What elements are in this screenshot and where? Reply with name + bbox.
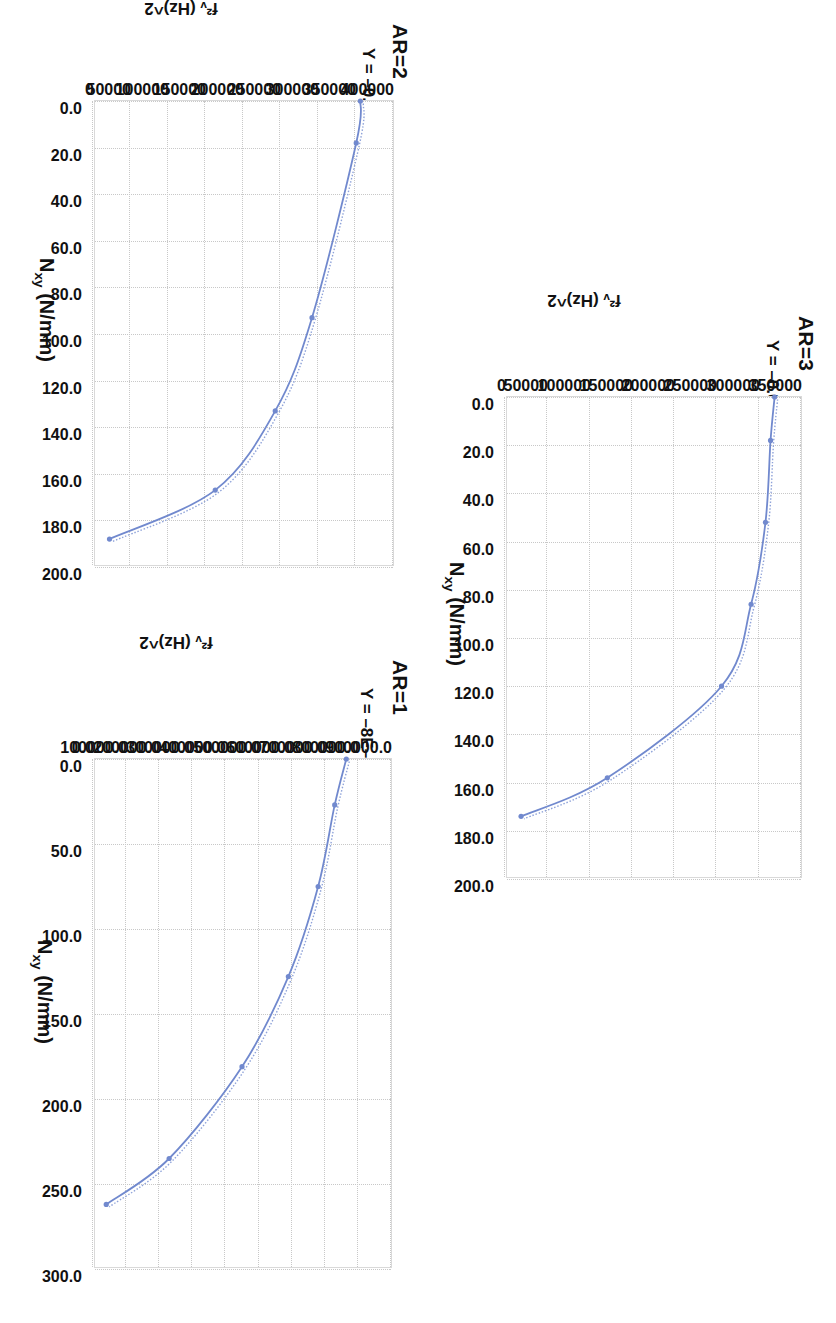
- y-title-text: f²ᵥ (Hz)^2: [139, 633, 213, 652]
- x-axis-tick-label: 120.0: [454, 685, 494, 703]
- x-axis-tick-label: 180.0: [42, 519, 82, 537]
- x-axis-tick-label: 150.0: [42, 1013, 82, 1031]
- data-point-marker: [605, 775, 610, 780]
- x-axis-tick-label: 200.0: [42, 1098, 82, 1116]
- y-axis-tick-label: 0: [497, 377, 506, 395]
- plot-area-ar1: [94, 758, 392, 1268]
- y-axis-title-ar2: f²ᵥ (Hz)^2: [144, 0, 218, 18]
- x-title-main: N: [36, 258, 58, 272]
- y-axis-tick-label: 50000: [504, 377, 549, 395]
- x-axis-tick-label: 200.0: [454, 878, 494, 896]
- data-point-marker: [719, 684, 724, 689]
- y-axis-title-ar1: f²ᵥ (Hz)^2: [139, 632, 213, 652]
- chart-panel-ar1: AR=1 Y = –8E–05x4 + 0.0147x3 – 9.5849x2 …: [18, 640, 418, 1300]
- x-axis-tick-label: 20.0: [51, 147, 82, 165]
- x-axis-tick-label: 250.0: [42, 1183, 82, 1201]
- data-point-marker: [763, 520, 768, 525]
- data-point-marker: [213, 488, 218, 493]
- data-point-marker: [344, 756, 349, 761]
- grid-line-vertical: [95, 567, 393, 569]
- data-point-marker: [104, 1202, 109, 1207]
- x-axis-tick-label: 80.0: [51, 286, 82, 304]
- data-point-marker: [309, 315, 314, 320]
- x-axis-tick-label: 100.0: [454, 637, 494, 655]
- x-axis-tick-label: 100.0: [42, 333, 82, 351]
- x-axis-tick-label: 160.0: [454, 782, 494, 800]
- grid-line-vertical: [507, 879, 801, 881]
- x-axis-tick-label: 140.0: [42, 426, 82, 444]
- data-point-marker: [316, 884, 321, 889]
- x-axis-tick-label: 20.0: [463, 444, 494, 462]
- data-point-marker: [768, 438, 773, 443]
- data-point-marker: [354, 140, 359, 145]
- x-axis-tick-label: 0.0: [60, 100, 82, 118]
- x-axis-tick-label: 40.0: [463, 492, 494, 510]
- data-series-curve: [93, 101, 393, 567]
- chart-title-ar1: AR=1: [388, 660, 412, 715]
- y-title-text: f²ᵥ (Hz)^2: [547, 291, 621, 310]
- x-axis-tick-label: 140.0: [454, 733, 494, 751]
- grid-line-vertical: [95, 1269, 391, 1271]
- plot-area-ar3: [506, 396, 802, 878]
- data-point-marker: [749, 602, 754, 607]
- chart-panel-ar3: AR=3 Y = –0.0006x4 + 0.0452x3 – 0.5769x2…: [431, 300, 826, 920]
- data-point-marker: [358, 98, 363, 103]
- chart-title-ar3: AR=3: [794, 316, 818, 371]
- data-series-curve: [505, 397, 801, 879]
- x-title-sub: xy: [442, 576, 457, 591]
- x-axis-tick-label: 200.0: [42, 566, 82, 584]
- x-title-main: N: [446, 562, 468, 576]
- data-point-marker: [286, 974, 291, 979]
- data-point-marker: [167, 1156, 172, 1161]
- data-point-marker: [273, 408, 278, 413]
- x-axis-tick-label: 0.0: [60, 758, 82, 776]
- x-axis-tick-label: 120.0: [42, 380, 82, 398]
- x-title-sub: xy: [30, 954, 45, 969]
- data-point-marker: [239, 1064, 244, 1069]
- chart-panel-ar2: AR=2 Y = –0.0008x4 + 0.1856x3 – 18.612x2…: [18, 8, 418, 608]
- x-axis-tick-label: 60.0: [463, 541, 494, 559]
- data-point-marker: [518, 814, 523, 819]
- x-axis-tick-label: 180.0: [454, 830, 494, 848]
- data-series-curve: [93, 759, 391, 1269]
- x-title-sub: xy: [32, 272, 47, 287]
- y-axis-tick-label: 0: [85, 81, 94, 99]
- data-point-marker: [107, 536, 112, 541]
- data-point-marker: [332, 802, 337, 807]
- x-axis-tick-label: 50.0: [51, 843, 82, 861]
- x-axis-tick-label: 60.0: [51, 240, 82, 258]
- x-axis-tick-label: 100.0: [42, 928, 82, 946]
- y-title-text: f²ᵥ (Hz)^2: [144, 0, 218, 18]
- x-title-unit: (N/mm): [34, 970, 56, 1044]
- chart-title-ar2: AR=2: [388, 24, 412, 79]
- x-axis-tick-label: 80.0: [463, 589, 494, 607]
- y-axis-tick-label: 0.0: [72, 739, 94, 757]
- x-axis-tick-label: 0.0: [472, 396, 494, 414]
- x-axis-tick-label: 40.0: [51, 193, 82, 211]
- x-axis-tick-label: 300.0: [42, 1268, 82, 1286]
- x-axis-tick-label: 160.0: [42, 473, 82, 491]
- data-point-marker: [772, 394, 777, 399]
- plot-area-ar2: [94, 100, 394, 566]
- y-axis-title-ar3: f²ᵥ (Hz)^2: [547, 290, 621, 310]
